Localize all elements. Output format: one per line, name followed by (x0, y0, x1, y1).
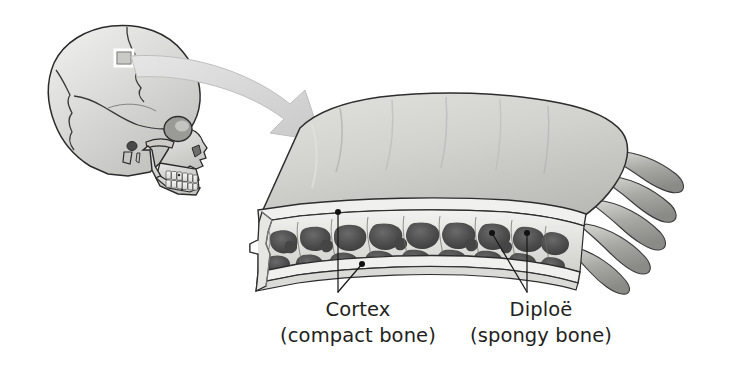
mandible-foramen (181, 189, 183, 191)
diploe-label-subtitle: (spongy bone) (470, 324, 612, 347)
styloid-process (136, 153, 140, 163)
diploe-label-title: Diploë (510, 298, 573, 321)
diploe-dot-right (524, 230, 530, 236)
cortex-dot-inner (359, 261, 365, 267)
anatomy-figure: Cortex (compact bone) Diploë (spongy bon… (0, 0, 734, 383)
mental-foramen (178, 174, 181, 177)
acoustic-meatus (127, 142, 137, 151)
diploe-dot-left (489, 230, 495, 236)
figure-canvas: Cortex (compact bone) Diploë (spongy bon… (0, 0, 734, 383)
cortex-dot-outer (335, 209, 341, 215)
cortex-label-subtitle: (compact bone) (280, 324, 436, 347)
orbit-highlight (175, 121, 189, 132)
cortex-label-title: Cortex (325, 298, 390, 321)
sample-site-highlight (115, 50, 133, 66)
mastoid-process (123, 152, 132, 164)
